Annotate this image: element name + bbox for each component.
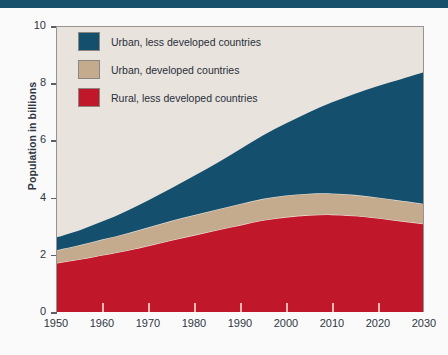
x-tick-label: 2000: [266, 317, 306, 329]
x-tick-label: 1980: [174, 317, 214, 329]
y-tick-label: 10: [22, 20, 46, 31]
x-tick-mark: [102, 303, 104, 312]
x-tick-mark: [332, 303, 334, 312]
chart-legend: Urban, less developed countriesUrban, de…: [78, 28, 328, 112]
x-axis-tick-marks: [56, 303, 424, 313]
legend-item: Urban, less developed countries: [78, 28, 328, 55]
legend-item-label: Urban, less developed countries: [111, 36, 261, 48]
legend-swatch-icon: [78, 60, 100, 79]
x-tick-mark: [286, 303, 288, 312]
x-tick-label: 2010: [312, 317, 352, 329]
x-tick-label: 1950: [36, 317, 76, 329]
y-tick-label: 0: [22, 306, 46, 317]
x-tick-label: 2030: [404, 317, 444, 329]
y-tick-label: 8: [22, 77, 46, 88]
y-tick-label: 6: [22, 134, 46, 145]
x-tick-mark: [378, 303, 380, 312]
x-tick-mark: [240, 303, 242, 312]
y-tick-label: 2: [22, 249, 46, 260]
legend-item-label: Urban, developed countries: [111, 64, 239, 76]
legend-item: Rural, less developed countries: [78, 84, 328, 111]
legend-swatch-icon: [78, 88, 100, 107]
x-tick-mark: [194, 303, 196, 312]
legend-swatch-icon: [78, 32, 100, 51]
x-tick-mark: [148, 303, 150, 312]
x-tick-label: 2020: [358, 317, 398, 329]
x-tick-label: 1960: [82, 317, 122, 329]
population-area-chart: Population in billions 0246810 Urban, le…: [0, 0, 448, 355]
legend-item-label: Rural, less developed countries: [111, 92, 258, 104]
y-axis-tick-labels: 0246810: [22, 0, 46, 355]
legend-item: Urban, developed countries: [78, 56, 328, 83]
x-tick-label: 1970: [128, 317, 168, 329]
y-tick-label: 4: [22, 192, 46, 203]
x-axis-tick-labels: 195019601970198019902000201020202030: [56, 317, 424, 337]
x-tick-label: 1990: [220, 317, 260, 329]
